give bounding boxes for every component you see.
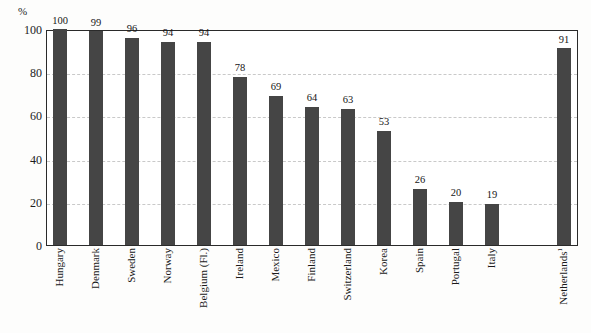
bar-value-label: 69 bbox=[271, 82, 282, 93]
footnote-marker: 1 bbox=[556, 248, 564, 252]
x-label-text: Sweden bbox=[126, 248, 137, 283]
bar-switzerland[interactable]: 63 bbox=[341, 29, 355, 245]
x-label-text: Ireland bbox=[234, 248, 245, 279]
y-axis-tick-0: 0 bbox=[16, 240, 42, 252]
bar-rect[interactable] bbox=[485, 204, 499, 245]
x-label-text: Finland bbox=[306, 248, 317, 282]
y-axis-tick-80: 80 bbox=[16, 67, 42, 79]
bar-rect[interactable] bbox=[341, 109, 355, 245]
x-label-hungary: Hungary bbox=[52, 248, 66, 330]
bar-value-label: 26 bbox=[415, 175, 426, 186]
x-label-text: Hungary bbox=[54, 248, 65, 287]
bar-belgium-fl[interactable]: 94 bbox=[197, 29, 211, 245]
x-label-ireland: Ireland bbox=[232, 248, 246, 330]
x-label-text: Norway bbox=[162, 248, 173, 283]
bar-ireland[interactable]: 78 bbox=[233, 29, 247, 245]
x-label-spain: Spain bbox=[412, 248, 426, 330]
bar-rect[interactable] bbox=[413, 189, 427, 245]
bar-hungary[interactable]: 100 bbox=[53, 29, 67, 245]
bar-italy[interactable]: 19 bbox=[485, 29, 499, 245]
bar-value-label: 91 bbox=[559, 35, 570, 46]
x-label-netherlands: Netherlands1 bbox=[556, 248, 570, 330]
x-label-text: Belgium (Fl.) bbox=[198, 248, 209, 308]
bar-value-label: 78 bbox=[235, 63, 246, 74]
bar-rect[interactable] bbox=[305, 107, 319, 245]
x-label-denmark: Denmark bbox=[88, 248, 102, 330]
x-label-italy: Italy bbox=[484, 248, 498, 330]
y-axis-tick-60: 60 bbox=[16, 110, 42, 122]
bar-value-label: 19 bbox=[487, 190, 498, 201]
bar-rect[interactable] bbox=[557, 48, 571, 245]
x-label-text: Mexico bbox=[270, 248, 281, 282]
bar-value-label: 94 bbox=[163, 28, 174, 39]
bar-value-label: 63 bbox=[343, 95, 354, 106]
bar-finland[interactable]: 64 bbox=[305, 29, 319, 245]
bar-spain[interactable]: 26 bbox=[413, 29, 427, 245]
x-label-norway: Norway bbox=[160, 248, 174, 330]
x-label-text: Korea bbox=[378, 248, 389, 275]
x-label-korea: Korea bbox=[376, 248, 390, 330]
bar-value-label: 64 bbox=[307, 93, 318, 104]
bar-sweden[interactable]: 96 bbox=[125, 29, 139, 245]
bar-rect[interactable] bbox=[125, 38, 139, 245]
bar-portugal[interactable]: 20 bbox=[449, 29, 463, 245]
x-label-belgium-fl: Belgium (Fl.) bbox=[196, 248, 210, 330]
x-label-mexico: Mexico bbox=[268, 248, 282, 330]
bar-rect[interactable] bbox=[53, 29, 67, 245]
bar-rect[interactable] bbox=[233, 77, 247, 245]
y-axis-tick-labels: 100806040200 bbox=[12, 0, 42, 333]
x-axis-category-labels: HungaryDenmarkSwedenNorwayBelgium (Fl.)I… bbox=[46, 248, 578, 333]
bar-norway[interactable]: 94 bbox=[161, 29, 175, 245]
bar-korea[interactable]: 53 bbox=[377, 29, 391, 245]
x-label-text: Denmark bbox=[90, 248, 101, 289]
x-label-text: Netherlands1 bbox=[557, 248, 569, 305]
bar-netherlands[interactable]: 91 bbox=[557, 29, 571, 245]
bar-chart: % 100806040200 1009996949478696463532620… bbox=[0, 0, 591, 333]
x-label-finland: Finland bbox=[304, 248, 318, 330]
x-label-sweden: Sweden bbox=[124, 248, 138, 330]
bar-rect[interactable] bbox=[269, 96, 283, 245]
x-label-text: Spain bbox=[414, 248, 425, 273]
bar-rect[interactable] bbox=[449, 202, 463, 245]
plot-area: 10099969494786964635326201991 bbox=[46, 30, 578, 246]
bar-value-label: 20 bbox=[451, 188, 462, 199]
x-label-text: Italy bbox=[486, 248, 497, 268]
x-label-portugal: Portugal bbox=[448, 248, 462, 330]
bar-value-label: 94 bbox=[199, 28, 210, 39]
bar-rect[interactable] bbox=[161, 42, 175, 245]
x-label-switzerland: Switzerland bbox=[340, 248, 354, 330]
bar-denmark[interactable]: 99 bbox=[89, 29, 103, 245]
y-axis-tick-20: 20 bbox=[16, 197, 42, 209]
bars-container: 10099969494786964635326201991 bbox=[47, 31, 577, 245]
bar-value-label: 53 bbox=[379, 117, 390, 128]
bar-rect[interactable] bbox=[89, 31, 103, 245]
x-label-text: Portugal bbox=[450, 248, 461, 285]
bar-mexico[interactable]: 69 bbox=[269, 29, 283, 245]
bar-value-label: 99 bbox=[91, 18, 102, 29]
bar-value-label: 96 bbox=[127, 24, 138, 35]
x-label-text: Switzerland bbox=[342, 248, 353, 301]
y-axis-tick-100: 100 bbox=[16, 24, 42, 36]
bar-rect[interactable] bbox=[197, 42, 211, 245]
bar-value-label: 100 bbox=[52, 16, 68, 27]
y-axis-tick-40: 40 bbox=[16, 154, 42, 166]
bar-rect[interactable] bbox=[377, 131, 391, 245]
